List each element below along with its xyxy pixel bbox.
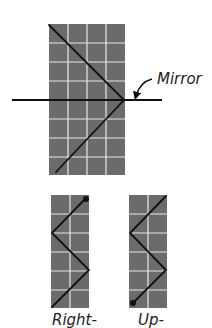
label-up: Up-	[138, 311, 164, 328]
mirror-pointer-arrow	[136, 79, 152, 96]
start-dot-up	[130, 300, 136, 306]
start-dot-right	[83, 196, 89, 202]
mirror-reflection-diagram: Mirror Right- Up-	[0, 0, 212, 328]
mirror-label: Mirror	[157, 70, 203, 88]
label-right: Right-	[52, 311, 97, 328]
